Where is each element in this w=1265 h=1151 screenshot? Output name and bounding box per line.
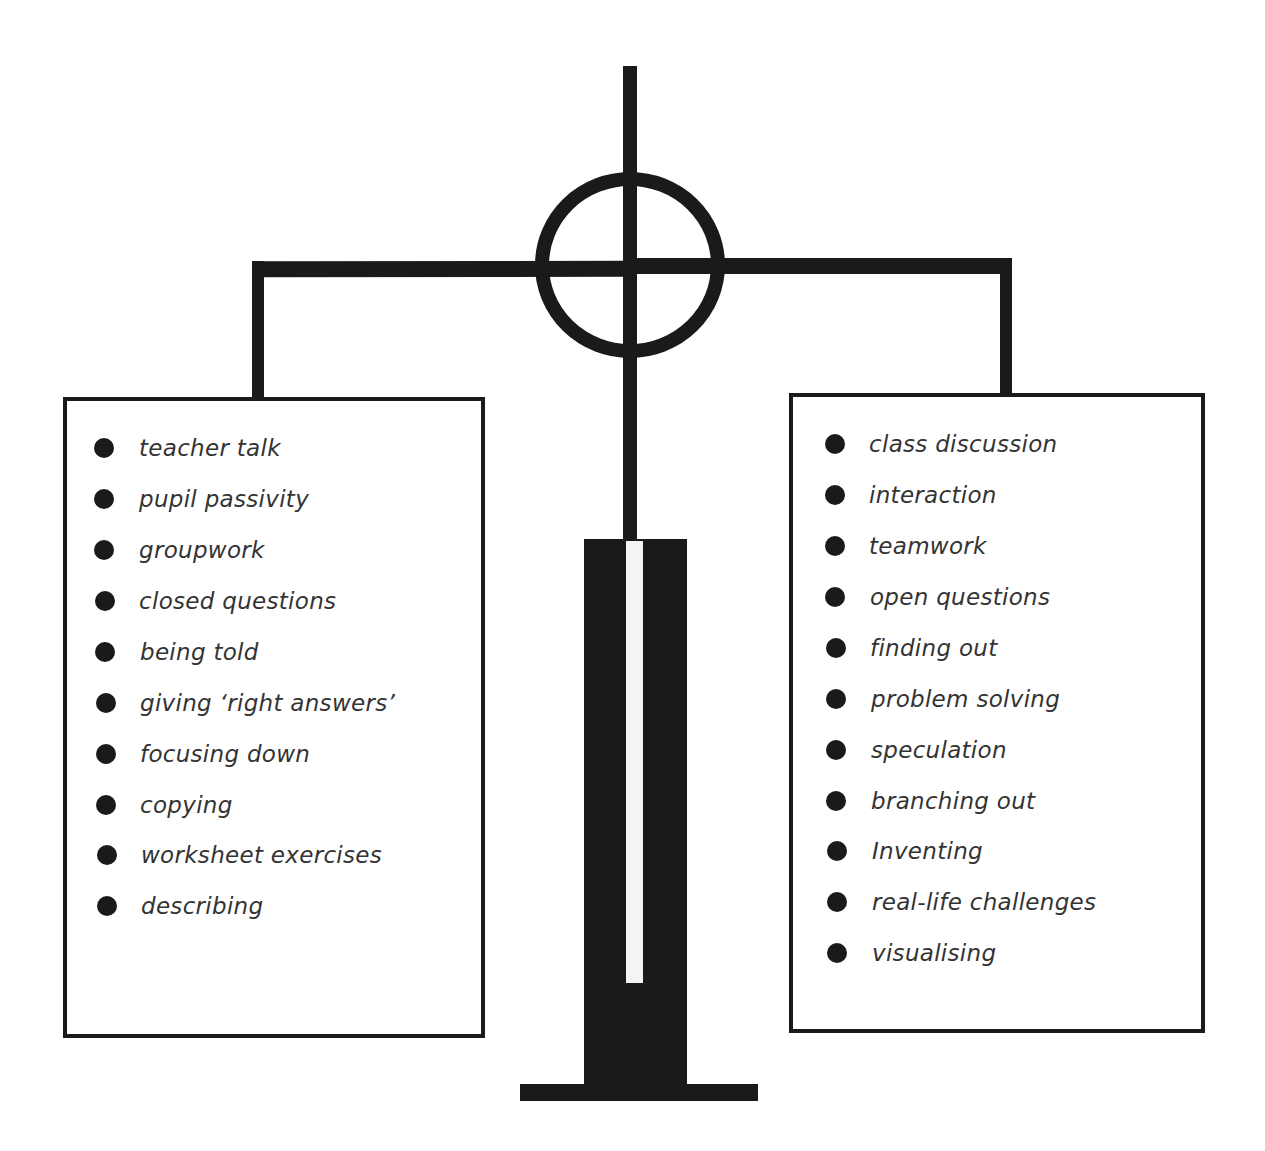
stand-slot (626, 541, 643, 983)
item-label: copying (140, 792, 233, 818)
bullet-icon (826, 740, 846, 760)
bullet-icon (94, 438, 114, 458)
item-label: focusing down (140, 741, 310, 767)
bullet-icon (825, 485, 845, 505)
list-item: being told (67, 632, 481, 672)
item-label: real-life challenges (872, 889, 1096, 915)
list-item: copying (67, 785, 481, 825)
list-item: problem solving (793, 679, 1201, 719)
list-item: describing (67, 886, 481, 926)
list-item: teamwork (793, 526, 1201, 566)
item-label: speculation (871, 737, 1007, 763)
list-item: giving ‘right answers’ (67, 683, 481, 723)
left-pan: teacher talk pupil passivity groupwork c… (63, 397, 485, 1038)
list-item: Inventing (793, 831, 1201, 871)
list-item: interaction (793, 475, 1201, 515)
bullet-icon (95, 642, 115, 662)
bullet-icon (825, 434, 845, 454)
right-pan: class discussion interaction teamwork op… (789, 393, 1205, 1033)
item-label: pupil passivity (139, 486, 309, 512)
list-item: speculation (793, 730, 1201, 770)
item-label: teamwork (869, 533, 987, 559)
bullet-icon (94, 489, 114, 509)
bullet-icon (97, 845, 117, 865)
item-label: closed questions (139, 588, 336, 614)
item-label: worksheet exercises (141, 842, 382, 868)
item-label: class discussion (869, 431, 1057, 457)
list-item: class discussion (793, 424, 1201, 464)
bullet-icon (94, 540, 114, 560)
list-item: visualising (793, 933, 1201, 973)
list-item: finding out (793, 628, 1201, 668)
bullet-icon (827, 892, 847, 912)
list-item: focusing down (67, 734, 481, 774)
item-label: groupwork (139, 537, 265, 563)
bullet-icon (826, 791, 846, 811)
list-item: closed questions (67, 581, 481, 621)
bullet-icon (826, 689, 846, 709)
list-item: branching out (793, 781, 1201, 821)
bullet-icon (97, 896, 117, 916)
item-label: teacher talk (139, 435, 281, 461)
item-label: interaction (869, 482, 997, 508)
item-label: problem solving (871, 686, 1060, 712)
list-item: teacher talk (67, 428, 481, 468)
bullet-icon (825, 536, 845, 556)
bullet-icon (96, 795, 116, 815)
list-item: real-life challenges (793, 882, 1201, 922)
bullet-icon (96, 744, 116, 764)
bullet-icon (95, 591, 115, 611)
item-label: Inventing (872, 838, 983, 864)
list-item: open questions (793, 577, 1201, 617)
item-label: describing (141, 893, 263, 919)
item-label: open questions (870, 584, 1050, 610)
list-item: groupwork (67, 530, 481, 570)
item-label: being told (140, 639, 259, 665)
bullet-icon (827, 943, 847, 963)
item-label: visualising (872, 940, 996, 966)
list-item: worksheet exercises (67, 835, 481, 875)
item-label: finding out (870, 635, 998, 661)
bullet-icon (96, 693, 116, 713)
item-label: branching out (871, 788, 1035, 814)
item-label: giving ‘right answers’ (140, 690, 395, 716)
bullet-icon (826, 638, 846, 658)
bullet-icon (825, 587, 845, 607)
list-item: pupil passivity (67, 479, 481, 519)
bullet-icon (827, 841, 847, 861)
stand-base (520, 1084, 758, 1101)
